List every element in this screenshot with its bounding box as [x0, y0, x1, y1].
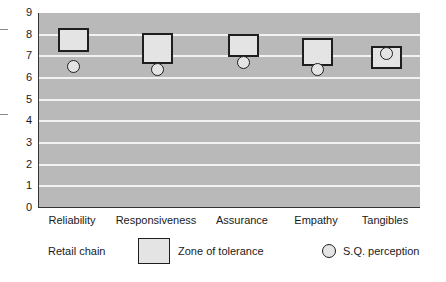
- x-category-label: Reliability: [48, 214, 95, 226]
- gridline: [39, 77, 420, 79]
- legend-zone-label: Zone of tolerance: [178, 245, 264, 257]
- y-tick-label: 0: [20, 201, 32, 213]
- y-tick-label: 6: [20, 71, 32, 83]
- y-tick-label: 8: [20, 28, 32, 40]
- margin-dash: [0, 29, 8, 30]
- y-tick-label: 5: [20, 93, 32, 105]
- zone-of-tolerance-box: [58, 28, 89, 52]
- gridline: [39, 164, 420, 166]
- y-tick-label: 9: [20, 6, 32, 18]
- zone-of-tolerance-box: [228, 34, 259, 58]
- y-tick-label: 7: [20, 49, 32, 61]
- gridline: [39, 185, 420, 187]
- zone-of-tolerance-box: [302, 38, 333, 66]
- y-tick-label: 4: [20, 114, 32, 126]
- x-category-label: Assurance: [216, 214, 268, 226]
- perception-point: [311, 63, 324, 76]
- zone-of-tolerance-box: [142, 33, 173, 64]
- perception-point: [237, 56, 250, 69]
- y-tick-label: 2: [20, 158, 32, 170]
- y-tick-label: 1: [20, 179, 32, 191]
- gridline: [39, 120, 420, 122]
- plot-area: [38, 13, 420, 208]
- margin-dash: [0, 114, 8, 115]
- perception-point: [151, 63, 164, 76]
- y-tick-label: 3: [20, 136, 32, 148]
- perception-point: [67, 60, 80, 73]
- x-category-label: Responsiveness: [116, 214, 197, 226]
- x-category-label: Empathy: [294, 214, 337, 226]
- gridline: [39, 142, 420, 144]
- zone-of-tolerance-swatch-icon: [138, 238, 170, 264]
- gridline: [39, 99, 420, 101]
- perception-point: [380, 47, 393, 60]
- perception-circle-icon: [322, 244, 336, 258]
- legend-perception-label: S.Q. perception: [343, 245, 419, 257]
- x-category-label: Tangibles: [362, 214, 408, 226]
- legend-group-label: Retail chain: [48, 245, 105, 257]
